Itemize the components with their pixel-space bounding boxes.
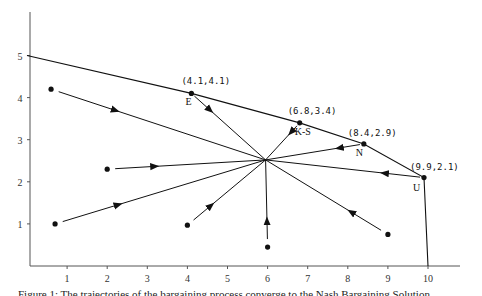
start-point-dot bbox=[385, 232, 390, 237]
trajectory-line bbox=[115, 160, 265, 169]
y-tick-label: 3 bbox=[18, 135, 23, 146]
x-tick-label: 5 bbox=[225, 273, 230, 284]
pareto-frontier-line bbox=[27, 56, 428, 267]
x-tick-label: 6 bbox=[265, 273, 270, 284]
start-point-dot bbox=[48, 87, 53, 92]
trajectory-line bbox=[266, 160, 268, 239]
y-tick-label: 2 bbox=[18, 177, 23, 188]
x-tick-label: 7 bbox=[305, 273, 310, 284]
coordinate-label: (9.9,2.1) bbox=[410, 162, 459, 172]
solution-point-dot bbox=[297, 120, 302, 125]
start-point-dot bbox=[52, 221, 57, 226]
x-tick-label: 3 bbox=[145, 273, 150, 284]
trajectories bbox=[48, 87, 420, 250]
x-tick-label: 10 bbox=[423, 273, 433, 284]
y-tick-label: 4 bbox=[18, 93, 23, 104]
trajectory-line bbox=[63, 160, 266, 222]
x-ticks: 12345678910 bbox=[65, 266, 433, 284]
start-point-dot bbox=[265, 244, 270, 249]
solution-point-dot bbox=[421, 175, 426, 180]
y-ticks: 12345 bbox=[18, 51, 31, 230]
trajectory-line bbox=[194, 160, 266, 220]
trajectory-line bbox=[266, 126, 297, 160]
solution-point-dot bbox=[189, 91, 194, 96]
x-tick-label: 9 bbox=[385, 273, 390, 284]
trajectory-line bbox=[266, 145, 360, 160]
coordinate-label: (6.8,3.4) bbox=[288, 106, 337, 116]
trajectory-line bbox=[194, 96, 265, 160]
solution-point-dot bbox=[361, 141, 366, 146]
axes: 12345678910 12345 bbox=[18, 12, 461, 284]
x-tick-label: 2 bbox=[105, 273, 110, 284]
solution-name-label: K-S bbox=[295, 126, 311, 137]
solution-name-label: E bbox=[185, 96, 191, 107]
trajectory-line bbox=[59, 92, 266, 160]
x-tick-label: 4 bbox=[185, 273, 190, 284]
solution-points: (4.1,4.1)E(6.8,3.4)K-S(8.4,2.9)N(9.9,2.1… bbox=[181, 76, 458, 192]
coordinate-label: (8.4,2.9) bbox=[348, 128, 397, 138]
x-tick-label: 1 bbox=[65, 273, 70, 284]
start-point-dot bbox=[105, 167, 110, 172]
trajectory-chart: 12345678910 12345 (4.1,4.1)E(6.8,3.4)K-S… bbox=[0, 0, 482, 296]
y-tick-label: 5 bbox=[18, 51, 23, 62]
figure-caption: Figure 1: The trajectories of the bargai… bbox=[18, 287, 478, 296]
y-tick-label: 1 bbox=[18, 219, 23, 230]
x-tick-label: 8 bbox=[345, 273, 350, 284]
solution-name-label: N bbox=[356, 147, 363, 158]
start-point-dot bbox=[185, 223, 190, 228]
coordinate-label: (4.1,4.1) bbox=[181, 76, 230, 86]
solution-name-label: U bbox=[413, 182, 421, 193]
